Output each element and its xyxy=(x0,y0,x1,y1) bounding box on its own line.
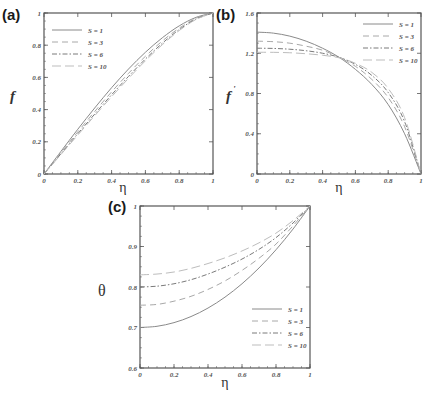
x-tick-label: 0.8 xyxy=(175,177,184,185)
panel-a-legend: S = 1S = 3S = 6S = 10 xyxy=(52,27,107,71)
x-tick-label: 0 xyxy=(42,177,46,185)
series-line-s1 xyxy=(257,32,421,174)
legend-label: S = 1 xyxy=(288,306,303,314)
x-tick-label: 0 xyxy=(138,371,142,379)
series-line-s3 xyxy=(140,206,310,305)
x-tick-label: 0.4 xyxy=(107,177,116,185)
legend-label: S = 10 xyxy=(288,342,307,350)
panel-b-axes-frame xyxy=(257,13,421,174)
x-tick-label: 0.2 xyxy=(170,371,179,379)
y-tick-label: 0.9 xyxy=(128,243,137,251)
y-tick-label: 0.8 xyxy=(128,284,137,292)
series-line-s10 xyxy=(257,52,421,174)
y-tick-label: 1 xyxy=(134,203,138,211)
legend-label: S = 3 xyxy=(288,318,303,326)
series-line-s6 xyxy=(44,13,213,174)
series-line-s10 xyxy=(44,13,213,174)
x-tick-label: 1 xyxy=(308,371,312,379)
panel-c-plot-area: 00.20.40.60.810.60.70.80.91S = 1S = 3S =… xyxy=(128,203,312,380)
panel-a-xlabel: η xyxy=(119,180,126,195)
panel-b-label: (b) xyxy=(216,6,235,23)
x-tick-label: 0.8 xyxy=(384,177,393,185)
y-tick-label: 0.6 xyxy=(32,74,41,82)
y-tick-label: 0.4 xyxy=(245,130,254,138)
y-tick-label: 0 xyxy=(38,171,42,179)
legend-label: S = 1 xyxy=(88,27,103,35)
panel-c-legend: S = 1S = 3S = 6S = 10 xyxy=(252,306,307,350)
y-tick-label: 0.2 xyxy=(32,138,41,146)
panel-c-chart: (c) θ η 00.20.40.60.810.60.70.80.91S = 1… xyxy=(98,198,312,390)
y-tick-label: 0 xyxy=(251,171,255,179)
legend-label: S = 3 xyxy=(399,33,414,41)
y-tick-label: 0.6 xyxy=(128,365,137,373)
figure: (a) f η 00.20.40.60.8100.20.40.60.81S = … xyxy=(0,0,429,398)
legend-label: S = 6 xyxy=(88,51,103,59)
legend-label: S = 10 xyxy=(88,63,107,71)
legend-label: S = 6 xyxy=(399,45,414,53)
x-tick-label: 0.6 xyxy=(238,371,247,379)
legend-label: S = 10 xyxy=(399,57,418,65)
series-line-s6 xyxy=(140,206,310,287)
x-tick-label: 0.4 xyxy=(318,177,327,185)
panel-a-chart: (a) f η 00.20.40.60.8100.20.40.60.81S = … xyxy=(2,6,215,195)
x-tick-label: 0.6 xyxy=(141,177,150,185)
panel-b-plot-area: 00.20.40.60.8100.40.81.21.6S = 1S = 3S =… xyxy=(245,10,423,186)
panel-b-legend: S = 1S = 3S = 6S = 10 xyxy=(363,21,418,65)
x-tick-label: 0.8 xyxy=(272,371,281,379)
series-line-s3 xyxy=(44,13,213,174)
panel-b-ylabel: f xyxy=(226,88,233,104)
x-tick-label: 0.4 xyxy=(204,371,213,379)
y-tick-label: 1 xyxy=(38,10,42,18)
y-tick-label: 0.8 xyxy=(245,90,254,98)
panel-a-ylabel: f xyxy=(10,88,17,104)
legend-label: S = 6 xyxy=(288,330,303,338)
x-tick-label: 1 xyxy=(419,177,423,185)
y-tick-label: 1.6 xyxy=(245,10,254,18)
panel-b-chart: (b) f ' η 00.20.40.60.8100.40.81.21.6S =… xyxy=(216,6,423,195)
panel-a-axes-frame xyxy=(44,13,213,174)
x-tick-label: 0.6 xyxy=(351,177,360,185)
series-line-s3 xyxy=(257,41,421,174)
panel-b-xlabel: η xyxy=(335,180,342,195)
y-tick-label: 0.8 xyxy=(32,42,41,50)
y-tick-label: 1.2 xyxy=(245,50,254,58)
x-tick-label: 0 xyxy=(255,177,259,185)
legend-label: S = 3 xyxy=(88,39,103,47)
y-tick-label: 0.4 xyxy=(32,106,41,114)
panel-a-label: (a) xyxy=(2,6,20,23)
x-tick-label: 0.2 xyxy=(285,177,294,185)
panel-c-ylabel: θ xyxy=(98,282,106,299)
series-line-s1 xyxy=(44,13,213,174)
legend-label: S = 1 xyxy=(399,21,414,29)
panel-a-plot-area: 00.20.40.60.8100.20.40.60.81S = 1S = 3S … xyxy=(32,10,215,186)
y-tick-label: 0.7 xyxy=(128,324,137,332)
panel-c-xlabel: η xyxy=(221,375,228,390)
panel-b-ylabel-prime: ' xyxy=(233,84,236,94)
x-tick-label: 0.2 xyxy=(73,177,82,185)
panel-c-label: (c) xyxy=(108,198,126,215)
x-tick-label: 1 xyxy=(211,177,215,185)
